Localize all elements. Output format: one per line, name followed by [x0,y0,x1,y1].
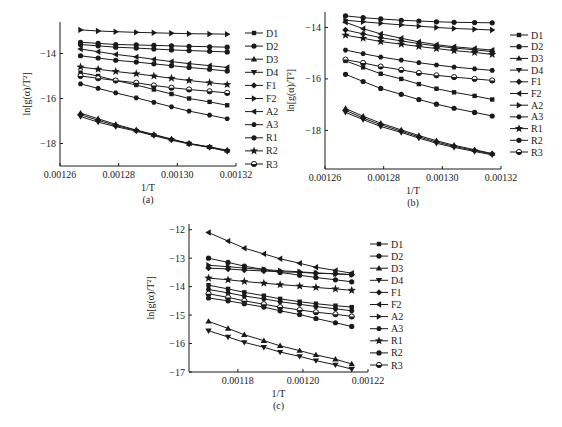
star-marker-icon [94,65,102,73]
square-marker-icon [226,287,230,291]
diamond-marker-icon [224,148,230,154]
legend-item-a2: A2 [370,311,403,322]
legend-label: D1 [531,30,543,41]
hexagon-marker-icon [490,68,495,73]
legend-label: R1 [391,335,403,346]
star-marker-icon [260,279,268,287]
circle-marker-icon [361,79,366,84]
square-marker-icon [225,103,229,107]
circle-marker-icon [186,65,191,70]
triangle-right-marker-icon [187,31,192,37]
legend-item-d3: D3 [245,54,278,65]
hexagon-marker-icon [472,67,477,72]
circle-marker-icon [78,42,83,47]
circle-marker-icon [333,277,338,282]
x-tick-label: 0.00132 [485,172,518,183]
star-marker-icon [295,282,303,290]
hexagon-marker-icon [225,116,230,121]
square-marker-icon [207,100,211,104]
hexagon-marker-icon [399,58,404,63]
y-tick-label: −14 [40,48,56,59]
circle-marker-icon [169,47,174,52]
legend-label: A3 [391,323,403,334]
y-tick-label: −14 [169,281,185,292]
legend-item-d4: D4 [370,275,403,286]
circle-marker-icon [451,106,456,111]
diamond-marker-icon [133,127,139,133]
square-marker-icon [434,86,438,90]
star-marker-icon [204,274,212,282]
triangle-down-marker-icon [516,68,522,73]
circle-marker-icon [207,67,212,72]
star-marker-icon [312,283,320,291]
legend-item-d3: D3 [370,263,403,274]
circle-marker-icon [186,48,191,53]
legend-label: D1 [391,239,403,250]
circle-marker-icon [207,49,212,54]
triangle-left-marker-icon [313,264,318,270]
circle-marker-icon [225,68,230,73]
series-d3 [205,318,355,366]
legend-label: A2 [266,106,278,117]
plot-area [204,229,356,372]
y-tick-label: −17 [169,367,185,378]
legend-label: F1 [266,80,277,91]
circle-marker-icon [134,59,139,64]
diamond-marker-icon [342,27,348,33]
square-marker-icon [472,94,476,98]
triangle-right-marker-icon [78,27,83,33]
star-marker-icon [240,277,248,285]
hexagon-marker-icon [113,91,118,96]
diamond-marker-icon [186,140,192,146]
legend-item-d1: D1 [510,30,543,41]
circle-marker-icon [96,43,101,48]
triangle-right-marker-icon [169,30,174,36]
y-axis-label: ln[g(α)/T²] [285,69,297,112]
triangle-left-marker-icon [205,229,210,235]
legend-label: D3 [266,54,278,65]
circle-marker-icon [349,324,354,329]
triangle-right-marker-icon [490,27,495,33]
diamond-marker-icon [378,35,384,41]
diamond-marker-icon [451,143,457,149]
star-marker-icon [224,275,232,283]
star-marker-icon [112,67,120,75]
triangle-left-marker-icon [516,90,521,96]
x-tick-label: 0.00128 [102,169,135,180]
circle-marker-icon [313,316,318,321]
triangle-right-marker-icon [134,29,139,35]
triangle-right-marker-icon [517,102,522,108]
legend-label: R3 [391,360,403,371]
x-tick-label: 0.00128 [367,172,400,183]
legend-label: D4 [391,275,403,286]
chart-caption: (a) [142,194,153,206]
hexagon-marker-icon [516,115,521,120]
legend-item-d3: D3 [510,53,543,64]
circle-marker-icon [472,110,477,115]
legend-item-f1: F1 [370,287,402,298]
circle-marker-icon [516,44,521,49]
star-marker-icon [167,74,175,82]
hexagon-marker-icon [376,326,381,331]
diamond-marker-icon [360,31,366,37]
triangle-left-marker-icon [277,256,282,262]
triangle-left-marker-icon [296,260,301,266]
circle-marker-icon [333,320,338,325]
circle-marker-icon [378,86,383,91]
legend-item-f2: F2 [245,93,277,104]
legend-item-r1: R1 [510,123,543,134]
triangle-left-marker-icon [95,49,100,55]
x-tick-label: 0.00130 [426,172,459,183]
circle-marker-icon [472,20,477,25]
y-tick-label: −18 [305,125,321,136]
circle-marker-icon [206,256,211,261]
legend-item-r2: R2 [510,135,543,146]
star-marker-icon [150,72,158,80]
triangle-right-marker-icon [225,31,230,37]
legend-item-r2: R2 [245,145,278,156]
legend-label: D2 [266,41,278,52]
star-marker-icon [331,284,339,292]
diamond-marker-icon [251,82,257,88]
circle-marker-icon [349,279,354,284]
chart-caption: (b) [407,197,419,209]
